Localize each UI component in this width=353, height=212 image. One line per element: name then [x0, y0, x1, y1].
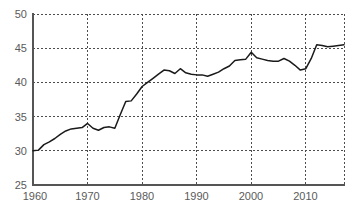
y-axis-tick-labels: 50 45 40 35 30 25	[15, 8, 27, 191]
y-tick-label-35: 35	[15, 111, 27, 123]
x-tick-label-1970: 1970	[75, 190, 99, 202]
axis-lines	[33, 13, 345, 185]
y-tick-label-50: 50	[15, 8, 27, 20]
chart-canvas: 50 45 40 35 30 25 1960 1970 1980 1990 20…	[0, 0, 353, 212]
data-series-line	[33, 45, 344, 151]
y-tick-label-30: 30	[15, 145, 27, 157]
horizontal-gridlines	[33, 14, 344, 151]
y-tick-label-45: 45	[15, 42, 27, 54]
x-tick-label-1960: 1960	[23, 190, 47, 202]
footer-artifact-text	[150, 201, 350, 211]
vertical-gridlines	[88, 14, 345, 185]
y-tick-label-40: 40	[15, 76, 27, 88]
line-chart-figure: 50 45 40 35 30 25 1960 1970 1980 1990 20…	[0, 0, 353, 212]
